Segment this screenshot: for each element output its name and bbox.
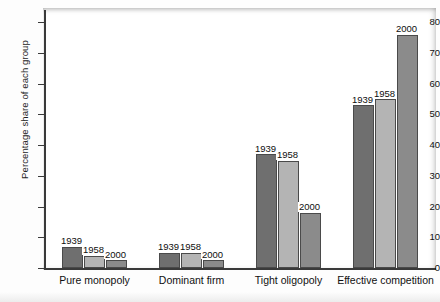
- y-tick-mark: [38, 176, 45, 177]
- bar-value-label: 2000: [298, 202, 321, 212]
- bar-value-label: 1958: [179, 242, 202, 252]
- bar-pure-monopoly-2000: [106, 260, 127, 268]
- bar-tight-oligopoly-2000: [300, 213, 321, 268]
- bar-group: 193919582000: [256, 10, 321, 268]
- bar-effective-competition-2000: [397, 35, 418, 268]
- bar-value-label: 1939: [351, 95, 374, 105]
- bar-chart: Percentage share of each group 010203040…: [0, 0, 440, 302]
- bar-tight-oligopoly-1939: [256, 154, 277, 268]
- y-tick-mark: [38, 22, 45, 23]
- bar-value-label: 1939: [254, 144, 277, 154]
- y-axis-title: Percentage share of each group: [19, 0, 30, 230]
- bar-group: 193919582000: [353, 10, 418, 268]
- y-tick-mark: [38, 268, 45, 269]
- bar-tight-oligopoly-1958: [278, 161, 299, 269]
- bar-pure-monopoly-1939: [62, 247, 83, 269]
- bar-value-label: 2000: [201, 250, 224, 260]
- bar-group: 193919582000: [62, 10, 127, 268]
- bar-value-label: 1939: [157, 242, 180, 252]
- bar-value-label: 2000: [104, 250, 127, 260]
- y-tick-mark: [38, 114, 45, 115]
- y-tick-mark: [38, 53, 45, 54]
- category-label: Dominant firm: [143, 274, 240, 286]
- bar-dominant-firm-1958: [181, 253, 202, 268]
- category-label: Pure monopoly: [46, 274, 143, 286]
- bar-effective-competition-1939: [353, 105, 374, 268]
- bar-pure-monopoly-1958: [84, 256, 105, 268]
- x-axis-line: [44, 268, 436, 270]
- category-label: Effective competition: [337, 274, 434, 286]
- bar-dominant-firm-2000: [203, 260, 224, 268]
- bar-value-label: 1958: [373, 89, 396, 99]
- y-tick-mark: [38, 145, 45, 146]
- bar-effective-competition-1958: [375, 99, 396, 268]
- bar-value-label: 2000: [395, 24, 418, 34]
- page-edge-shade: [0, 292, 440, 302]
- y-tick-mark: [38, 84, 45, 85]
- y-tick-mark: [38, 237, 45, 238]
- plot-area: 1939195820001939195820001939195820001939…: [46, 10, 434, 268]
- bar-value-label: 1958: [82, 245, 105, 255]
- bar-value-label: 1939: [60, 236, 83, 246]
- bar-group: 193919582000: [159, 10, 224, 268]
- bar-dominant-firm-1939: [159, 253, 180, 268]
- y-tick-mark: [38, 207, 45, 208]
- bar-value-label: 1958: [276, 150, 299, 160]
- category-label: Tight oligopoly: [240, 274, 337, 286]
